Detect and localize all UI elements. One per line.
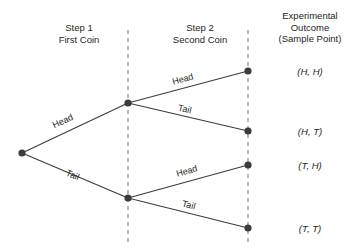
node-outcome-th [244, 161, 251, 168]
node-outcome-ht [244, 127, 251, 134]
column-header-step1-line1: Step 1 [30, 22, 128, 34]
branch-root-to-head [22, 103, 128, 153]
probability-tree-diagram: Step 1 First Coin Step 2 Second Coin Exp… [0, 0, 357, 251]
outcome-text-ht: (H, T) [298, 126, 322, 137]
column-header-step2: Step 2 Second Coin [150, 22, 250, 45]
column-header-outcome-line3: (Sample Point) [266, 33, 354, 45]
column-header-step1-line2: First Coin [30, 34, 128, 46]
node-outcome-hh [244, 67, 251, 74]
node-outcome-tt [244, 224, 251, 231]
node-step1-tail [124, 194, 131, 201]
outcome-label-tt: (T, T) [266, 223, 354, 234]
column-header-step2-line2: Second Coin [150, 34, 250, 46]
column-header-outcome-line1: Experimental [266, 10, 354, 22]
outcome-text-hh: (H, H) [297, 66, 322, 77]
node-root [18, 149, 25, 156]
outcome-text-th: (T, H) [298, 160, 321, 171]
node-step1-head [124, 99, 131, 106]
outcome-text-tt: (T, T) [299, 223, 321, 234]
outcome-label-th: (T, H) [266, 160, 354, 171]
column-header-step2-line1: Step 2 [150, 22, 250, 34]
outcome-label-ht: (H, T) [266, 126, 354, 137]
outcome-label-hh: (H, H) [266, 66, 354, 77]
column-header-outcome: Experimental Outcome (Sample Point) [266, 10, 354, 45]
column-header-outcome-line2: Outcome [266, 22, 354, 34]
column-header-step1: Step 1 First Coin [30, 22, 128, 45]
